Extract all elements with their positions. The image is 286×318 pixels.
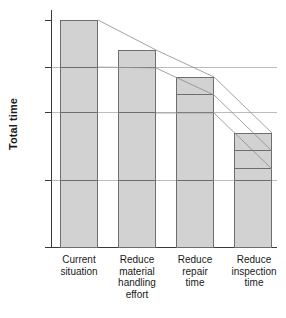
bar-1-segment-machining — [60, 180, 98, 248]
bar-4-segment-machining — [234, 180, 272, 248]
bar-3-segment-inspection — [176, 112, 214, 181]
x-axis-label-3: Reduce repair time — [165, 254, 225, 289]
bar-2-segment-inspection — [118, 112, 156, 181]
connector-3-top — [214, 77, 272, 133]
connector-2-top — [156, 50, 214, 77]
bar-1-segment-repair — [60, 67, 98, 113]
bar-1-segment-material-handling — [60, 20, 98, 68]
connector-1-top — [98, 20, 156, 50]
bar-1-segment-inspection — [60, 112, 98, 181]
x-axis-label-2: Reduce material handling effort — [107, 254, 167, 300]
bar-2-segment-machining — [118, 180, 156, 248]
x-axis-label-1: Current situation — [49, 254, 109, 277]
bar-3-segment-machining — [176, 180, 214, 248]
bar-4-segment-material-handling — [234, 133, 272, 151]
stacked-bar-chart: Total time Machining Inspection Repair M… — [0, 0, 286, 318]
bar-2-segment-material-handling — [118, 50, 156, 68]
bar-3-segment-material-handling — [176, 77, 214, 95]
x-axis-label-4: Reduce inspection time — [221, 254, 286, 289]
bar-3-segment-repair — [176, 94, 214, 113]
bar-4-segment-repair — [234, 150, 272, 169]
bar-2-segment-repair — [118, 67, 156, 113]
